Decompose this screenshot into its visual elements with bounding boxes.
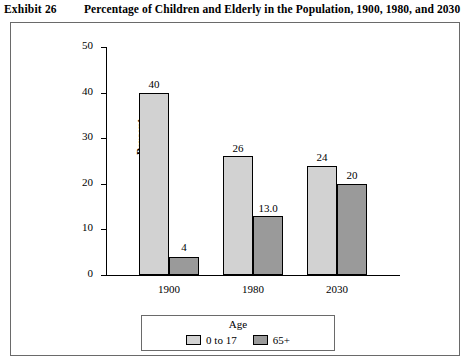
x-tick-label-1980: 1980 (228, 283, 278, 295)
y-tick-10: 10 (101, 229, 106, 230)
legend-entry-children: 0 to 17 (186, 334, 237, 346)
legend-swatch-children-icon (186, 335, 201, 345)
bar-1900-elderly (169, 257, 199, 275)
y-tick-20: 20 (101, 184, 106, 185)
y-tick-50: 50 (101, 47, 106, 48)
y-axis-line (106, 47, 107, 275)
bar-value-1980-elderly: 13.0 (243, 202, 293, 214)
y-tick-label-40: 40 (82, 85, 93, 97)
y-tick-30: 30 (101, 138, 106, 139)
y-tick-0: 0 (101, 275, 106, 276)
chart-frame: 0 10 20 30 40 50 Percent 40 4 (10, 22, 460, 356)
y-tick-label-10: 10 (82, 221, 93, 233)
y-tick-40: 40 (101, 93, 106, 94)
legend-entry-elderly: 65+ (253, 334, 290, 346)
bar-value-2030-elderly: 20 (327, 169, 377, 181)
exhibit-label: Exhibit 26 (4, 3, 57, 15)
bar-value-2030-children: 24 (297, 151, 347, 163)
x-tick-label-2030: 2030 (312, 283, 362, 295)
legend-label-elderly: 65+ (273, 334, 290, 346)
y-tick-label-30: 30 (82, 130, 93, 142)
bar-1980-elderly (253, 216, 283, 275)
legend-items: 0 to 17 65+ (142, 334, 334, 346)
y-tick-label-20: 20 (82, 176, 93, 188)
legend-label-children: 0 to 17 (206, 334, 237, 346)
bar-2030-children (307, 166, 337, 275)
x-tick-label-1900: 1900 (144, 283, 194, 295)
bar-value-1980-children: 26 (213, 142, 263, 154)
y-tick-label-0: 0 (88, 267, 94, 279)
legend-title: Age (142, 318, 334, 330)
bar-value-1900-elderly: 4 (159, 241, 209, 253)
y-tick-label-50: 50 (82, 39, 93, 51)
x-axis-line (106, 275, 400, 276)
bar-1980-children (223, 156, 253, 275)
legend: Age 0 to 17 65+ (141, 315, 335, 351)
chart-title: Percentage of Children and Elderly in th… (84, 3, 460, 15)
legend-swatch-elderly-icon (253, 335, 268, 345)
bar-value-1900-children: 40 (129, 78, 179, 90)
bar-2030-elderly (337, 184, 367, 275)
plot-area: 0 10 20 30 40 50 Percent 40 4 (106, 47, 400, 275)
chart-page: Exhibit 26 Percentage of Children and El… (0, 0, 471, 362)
